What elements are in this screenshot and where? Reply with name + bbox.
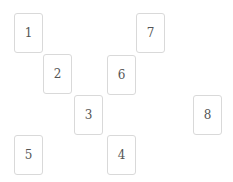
card-1[interactable]: 1 (14, 13, 43, 53)
card-label: 2 (54, 68, 62, 80)
card-5[interactable]: 5 (14, 135, 43, 175)
card-label: 3 (85, 109, 93, 121)
card-label: 6 (118, 69, 126, 81)
card-3[interactable]: 3 (74, 95, 103, 135)
card-2[interactable]: 2 (43, 54, 72, 94)
card-8[interactable]: 8 (193, 95, 222, 135)
card-label: 8 (204, 109, 212, 121)
card-7[interactable]: 7 (136, 13, 165, 53)
card-4[interactable]: 4 (107, 135, 136, 175)
card-board: 1 2 3 4 5 6 7 8 (0, 0, 233, 182)
card-label: 5 (25, 149, 33, 161)
card-label: 1 (25, 27, 33, 39)
card-6[interactable]: 6 (107, 55, 136, 95)
card-label: 7 (147, 27, 155, 39)
card-label: 4 (118, 149, 126, 161)
